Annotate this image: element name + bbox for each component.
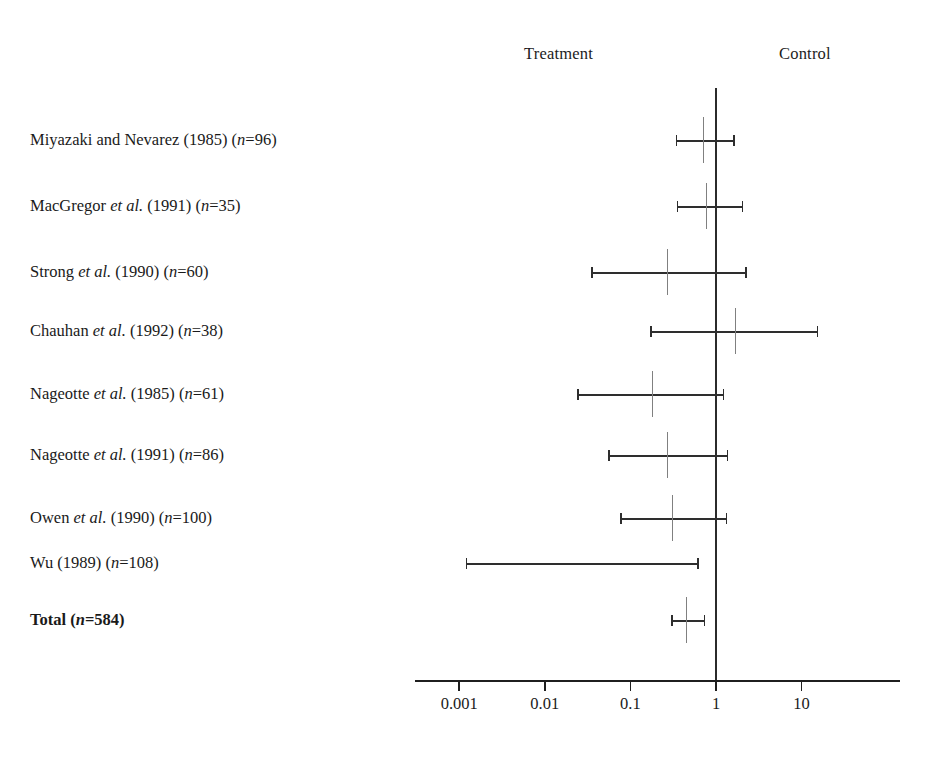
ci-upper-cap [726,513,728,524]
point-estimate-marker [703,117,704,163]
ci-upper-cap [697,558,699,569]
study-label: Owen et al. (1990) (n=100) [30,510,212,527]
ci-whisker-line [677,206,742,208]
total-row-label: Total (n=584) [30,612,125,629]
ci-upper-cap [727,450,729,461]
axis-tick-label: 0.01 [530,694,559,714]
ci-lower-cap [608,450,610,461]
axis-tick-label: 10 [793,694,810,714]
ci-whisker-line [650,331,817,333]
null-effect-line [715,88,716,681]
ci-lower-cap [677,201,679,212]
ci-lower-cap [650,326,652,337]
axis-tick-mark [458,682,460,691]
point-estimate-marker [667,249,668,295]
ci-lower-cap [676,135,678,146]
column-header-control: Control [779,44,831,64]
study-label: MacGregor et al. (1991) (n=35) [30,198,240,215]
study-label: Strong et al. (1990) (n=60) [30,264,208,281]
axis-tick-label: 0.001 [441,694,478,714]
ci-upper-cap [733,135,735,146]
ci-whisker-line [577,394,722,396]
point-estimate-marker [686,597,687,643]
ci-lower-cap [620,513,622,524]
study-label: Nageotte et al. (1991) (n=86) [30,447,224,464]
study-label: Chauhan et al. (1992) (n=38) [30,323,223,340]
ci-upper-cap [723,389,725,400]
column-header-treatment: Treatment [524,44,593,64]
study-label: Miyazaki and Nevarez (1985) (n=96) [30,132,277,149]
ci-upper-cap [817,326,819,337]
forest-plot: Treatment Control Miyazaki and Nevarez (… [0,0,928,757]
x-axis-line [415,680,900,682]
study-label: Wu (1989) (n=108) [30,555,159,572]
point-estimate-marker [706,183,707,229]
point-estimate-marker [735,308,736,354]
ci-whisker-line [466,563,697,565]
ci-whisker-line [671,620,704,622]
ci-whisker-line [591,272,745,274]
point-estimate-marker [667,432,668,478]
study-label: Nageotte et al. (1985) (n=61) [30,386,224,403]
axis-tick-mark [801,682,803,691]
axis-tick-label: 0.1 [620,694,641,714]
axis-tick-mark [630,682,632,691]
axis-tick-label: 1 [712,694,720,714]
ci-upper-cap [745,267,747,278]
point-estimate-marker [672,495,673,541]
ci-lower-cap [577,389,579,400]
ci-lower-cap [466,558,468,569]
axis-tick-mark [715,682,717,691]
ci-upper-cap [742,201,744,212]
ci-lower-cap [591,267,593,278]
ci-lower-cap [671,615,673,626]
ci-upper-cap [704,615,706,626]
point-estimate-marker [652,371,653,417]
axis-tick-mark [544,682,546,691]
